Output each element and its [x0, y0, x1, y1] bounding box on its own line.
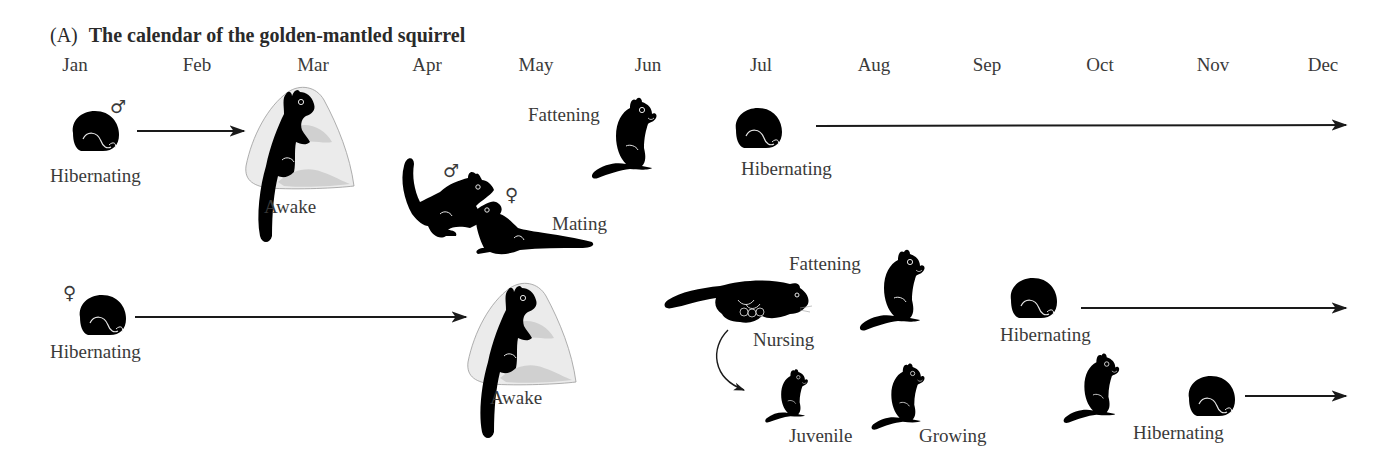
stage-label-mating: Mating — [552, 213, 607, 235]
juvenile-fattened-icon — [1064, 354, 1120, 423]
stage-label-hibernating: Hibernating — [50, 341, 141, 363]
female-hibernating-icon — [80, 295, 126, 335]
stage-label-fattening: Fattening — [528, 104, 600, 126]
stage-label-awake: Awake — [264, 196, 316, 218]
curved-arrow-icon — [717, 330, 744, 390]
mating-pair-icon — [402, 158, 593, 254]
arrow-icon — [816, 125, 1346, 126]
female-symbol: ♀ — [63, 282, 76, 303]
stage-label-hibernating: Hibernating — [50, 165, 141, 187]
male-fattening-icon — [592, 98, 657, 179]
female-symbol: ♀ — [505, 184, 518, 205]
juvenile-hibernating-icon — [1189, 376, 1235, 416]
stage-label-hibernating: Hibernating — [741, 158, 832, 180]
growing-icon — [872, 363, 925, 429]
male-symbol: ♂ — [443, 160, 459, 181]
diagram-graphics — [0, 0, 1389, 473]
stage-label-fattening: Fattening — [789, 253, 861, 275]
female-fattening-icon — [860, 250, 925, 331]
juvenile-icon — [765, 369, 808, 422]
female-awake-icon — [468, 283, 576, 438]
male-awake-icon — [246, 87, 354, 242]
stage-label-growing: Growing — [919, 425, 987, 447]
stage-label-awake: Awake — [490, 387, 542, 409]
nursing-squirrel-icon — [665, 280, 812, 322]
stage-label-juvenile: Juvenile — [789, 425, 852, 447]
male-hibernating-icon — [73, 111, 119, 151]
male-hibernating-late-icon — [736, 108, 782, 148]
stage-label-nursing: Nursing — [753, 329, 814, 351]
male-symbol: ♂ — [110, 96, 126, 117]
stage-label-hibernating: Hibernating — [1133, 422, 1224, 444]
female-hibernating-late-icon — [1011, 278, 1057, 318]
stage-label-hibernating: Hibernating — [1000, 324, 1091, 346]
